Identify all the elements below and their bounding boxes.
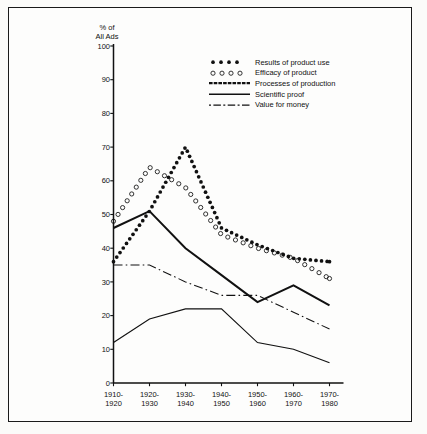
legend-key-dash-dot-icon — [206, 100, 252, 110]
legend-item-scientific-proof: Scientific proof — [206, 89, 376, 100]
legend-label: Processes of production — [252, 79, 335, 88]
series-efficacy-of-product — [111, 166, 331, 281]
legend-label: Value for money — [252, 100, 309, 109]
legend-key-open-circles-icon — [206, 68, 252, 78]
legend-item-value-for-money: Value for money — [206, 99, 376, 110]
legend-item-efficacy-of-product: Efficacy of product — [206, 68, 376, 79]
figure-canvas: % of All Ads 1009080706050403020100 1910… — [0, 0, 427, 434]
legend-label: Efficacy of product — [252, 68, 317, 77]
legend-key-filled-dots-icon — [206, 57, 252, 67]
series-scientific-proof — [114, 309, 330, 363]
legend-item-results-of-product-use: Results of product use — [206, 57, 376, 68]
legend-item-processes-of-production: Processes of production — [206, 78, 376, 89]
legend-label: Scientific proof — [252, 90, 304, 99]
series-results-of-product-use — [112, 146, 332, 263]
chart-legend: Results of product useEfficacy of produc… — [206, 57, 376, 110]
legend-key-thick-solid-icon — [206, 78, 252, 88]
legend-key-thin-solid-icon — [206, 89, 252, 99]
data-series-layer — [111, 146, 331, 363]
legend-label: Results of product use — [252, 58, 330, 67]
